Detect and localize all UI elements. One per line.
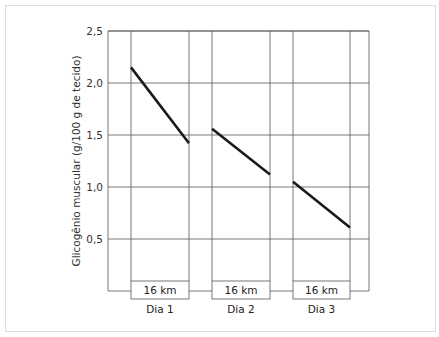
glycogen-line bbox=[293, 182, 350, 228]
day-label: Dia 1 bbox=[146, 303, 173, 315]
y-tick-label: 2,5 bbox=[86, 25, 103, 37]
grid bbox=[108, 31, 369, 281]
axes bbox=[108, 31, 369, 299]
y-tick-label: 2,0 bbox=[86, 77, 103, 89]
distance-label: 16 km bbox=[305, 284, 338, 296]
y-tick-label: 1,5 bbox=[86, 129, 103, 141]
glycogen-line bbox=[212, 129, 270, 175]
distance-label: 16 km bbox=[224, 284, 257, 296]
day-label: Dia 2 bbox=[227, 303, 254, 315]
labels: 0,51,01,52,02,516 kmDia 116 kmDia 216 km… bbox=[70, 25, 338, 315]
glycogen-line bbox=[131, 67, 189, 143]
data-lines bbox=[131, 67, 350, 227]
distance-label: 16 km bbox=[143, 284, 176, 296]
y-tick-label: 0,5 bbox=[86, 233, 103, 245]
y-axis-label: Glicogênio muscular (g/100 g de tecido) bbox=[70, 55, 82, 266]
glycogen-chart: 0,51,01,52,02,516 kmDia 116 kmDia 216 km… bbox=[0, 0, 439, 337]
day-label: Dia 3 bbox=[308, 303, 335, 315]
y-tick-label: 1,0 bbox=[86, 181, 103, 193]
